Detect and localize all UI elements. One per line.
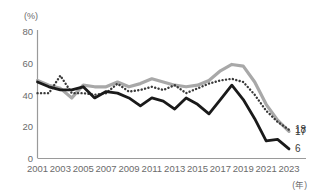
x-tick-label: 2011	[142, 163, 162, 174]
x-tick-label: 2009	[118, 163, 139, 174]
y-axis-unit-label: (%)	[24, 11, 38, 21]
x-tick-label: 2021	[256, 163, 277, 174]
x-tick-label: 2023	[278, 163, 299, 174]
x-tick-label: 2015	[187, 163, 208, 174]
x-tick-label: 2017	[210, 163, 231, 174]
chart-canvas: (%) 80 60 40 20 0 2001200320052007200920…	[0, 0, 313, 192]
y-tick-label: 20	[22, 121, 33, 132]
x-tick-label: 2007	[96, 163, 117, 174]
series-line-gray-solid-series	[38, 64, 290, 131]
x-tick-label: 2019	[233, 163, 254, 174]
series-end-labels: 18176	[295, 124, 307, 154]
y-tick-label: 0	[28, 153, 33, 164]
x-tick-label: 2001	[27, 163, 48, 174]
x-axis-unit-label: (年)	[292, 180, 307, 190]
series-end-label: 17	[295, 126, 307, 137]
line-chart: (%) 80 60 40 20 0 2001200320052007200920…	[0, 0, 313, 192]
y-tick-label: 40	[22, 90, 33, 101]
x-tick-label: 2013	[164, 163, 185, 174]
y-tick-label: 60	[22, 58, 33, 69]
x-tick-label: 2003	[50, 163, 71, 174]
series-end-label: 6	[295, 143, 301, 154]
x-tick-label: 2005	[73, 163, 94, 174]
y-tick-labels: 80 60 40 20 0	[22, 26, 33, 164]
data-series-group	[38, 64, 290, 148]
x-tick-labels: 2001200320052007200920112013201520172019…	[27, 163, 300, 174]
y-tick-label: 80	[22, 26, 33, 37]
